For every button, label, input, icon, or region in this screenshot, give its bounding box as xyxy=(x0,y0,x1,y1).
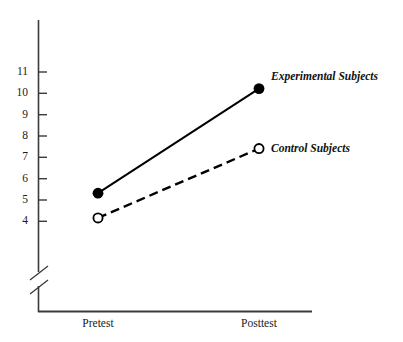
series-line-control xyxy=(98,149,259,218)
y-tick-label-10: 10 xyxy=(6,87,28,99)
x-axis-label-posttest: Posttest xyxy=(214,318,304,330)
line-chart: 11 10 9 8 7 6 5 4 Pretest Posttest Exper… xyxy=(0,0,403,342)
y-tick-label-9: 9 xyxy=(6,109,28,121)
y-tick-label-4: 4 xyxy=(6,215,28,227)
plot-area xyxy=(0,0,403,342)
y-tick-label-11: 11 xyxy=(6,66,28,78)
series-label-control: Control Subjects xyxy=(271,143,350,155)
marker-experimental-posttest xyxy=(254,83,265,94)
y-tick-label-6: 6 xyxy=(6,173,28,185)
y-tick-marks xyxy=(39,72,47,221)
y-tick-label-7: 7 xyxy=(6,151,28,163)
x-axis-label-pretest: Pretest xyxy=(53,318,143,330)
series-line-experimental xyxy=(98,89,259,194)
y-tick-label-8: 8 xyxy=(6,130,28,142)
series-label-experimental: Experimental Subjects xyxy=(271,71,378,83)
marker-control-pretest xyxy=(93,213,102,222)
marker-control-posttest xyxy=(254,144,263,153)
marker-experimental-pretest xyxy=(93,188,104,199)
y-tick-label-5: 5 xyxy=(6,194,28,206)
